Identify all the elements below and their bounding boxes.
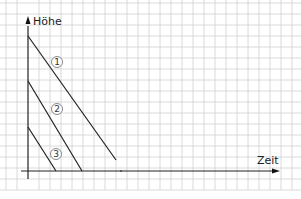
y-axis — [26, 16, 31, 179]
svg-text:1: 1 — [54, 57, 60, 67]
diagram: Höhe Zeit 1 2 3 — [0, 0, 301, 199]
y-axis-arrow-icon — [26, 16, 31, 24]
series-label-2: 2 — [52, 104, 63, 115]
line-3 — [28, 127, 56, 171]
grid — [0, 0, 301, 190]
series-label-1: 1 — [52, 57, 63, 68]
x-axis — [21, 169, 280, 174]
series-label-3: 3 — [51, 149, 62, 160]
x-axis-label: Zeit — [257, 154, 279, 167]
svg-text:3: 3 — [53, 149, 59, 159]
x-axis-arrow-icon — [272, 169, 280, 174]
y-axis-label: Höhe — [33, 15, 62, 28]
svg-text:2: 2 — [54, 104, 60, 114]
